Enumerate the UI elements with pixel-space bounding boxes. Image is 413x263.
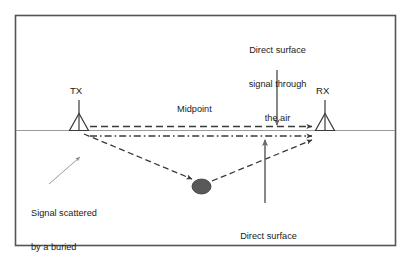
direct-soil-label-line1: Direct surface [216, 231, 321, 242]
direct-air-label: Direct surface signal through the air [225, 23, 330, 146]
scattered-signal-label-line1: Signal scattered [31, 208, 146, 219]
tx-antenna-label: TX [70, 85, 82, 96]
direct-soil-label: Direct surface signal through the soil [216, 209, 321, 263]
direct-air-label-line1: Direct surface [225, 45, 330, 56]
scattered-signal-label-line2: by a buried [31, 242, 146, 253]
direct-air-label-line2: signal through [225, 79, 330, 90]
scattered-signal-label: Signal scattered by a buried target in t… [31, 186, 146, 263]
scatter-down-path [84, 134, 192, 179]
scattered-annotation-leader [49, 157, 80, 184]
direct-air-label-line3: the air [225, 113, 330, 124]
diagram-canvas: TX RX Midpoint Direct surface signal thr… [0, 0, 413, 263]
midpoint-label: Midpoint [177, 104, 212, 114]
tx-antenna [70, 100, 89, 131]
buried-target [192, 179, 211, 194]
